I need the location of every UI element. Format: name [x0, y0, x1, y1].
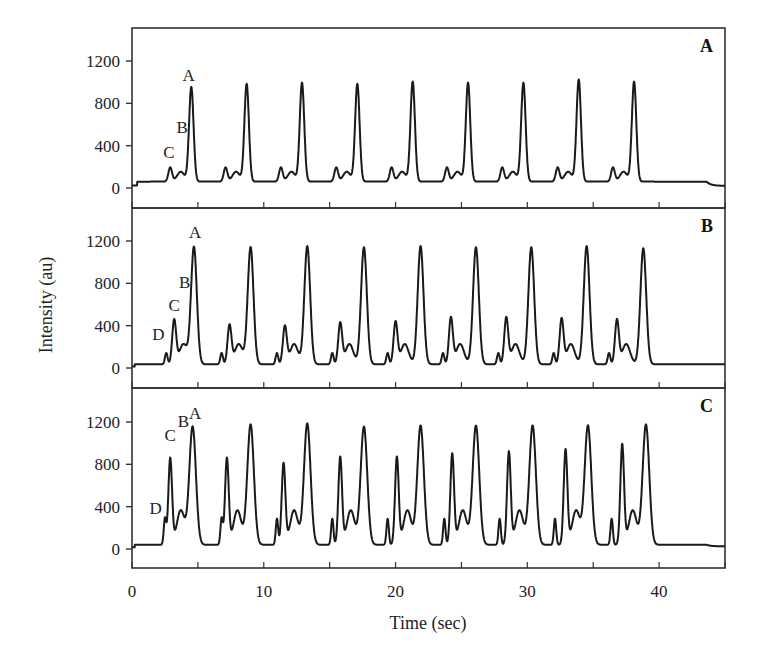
panel-c: 04008001200CABCD: [86, 388, 725, 568]
peak-label-a: A: [189, 223, 202, 242]
y-tick-label: 400: [95, 498, 121, 517]
peak-label-b: B: [179, 273, 190, 292]
chromatogram-figure: 04008001200AABC04008001200BABCD040080012…: [0, 0, 762, 665]
peak-label-b: B: [176, 118, 187, 137]
panels-group: 04008001200AABC04008001200BABCD040080012…: [86, 28, 725, 601]
chromatogram-trace: [132, 80, 725, 186]
y-tick-label: 1200: [86, 52, 120, 71]
panel-label: B: [701, 216, 713, 236]
y-tick-label: 0: [112, 359, 121, 378]
peak-label-b: B: [178, 412, 189, 431]
peak-label-a: A: [183, 66, 196, 85]
y-tick-label: 0: [112, 540, 121, 559]
chromatogram-trace: [132, 246, 725, 366]
peak-label-c: C: [163, 143, 174, 162]
x-tick-label: 0: [128, 582, 137, 601]
x-tick-label: 30: [519, 582, 536, 601]
x-axis-title: Time (sec): [390, 613, 467, 634]
y-tick-label: 400: [95, 317, 121, 336]
y-axis-title: Intensity (au): [36, 257, 57, 353]
y-tick-label: 0: [112, 179, 121, 198]
y-tick-label: 800: [95, 94, 121, 113]
x-tick-label: 10: [255, 582, 272, 601]
peak-label-c: C: [165, 426, 176, 445]
y-tick-label: 800: [95, 455, 121, 474]
y-tick-label: 1200: [86, 413, 120, 432]
panel-a: 04008001200AABC: [86, 28, 725, 208]
y-tick-label: 800: [95, 274, 121, 293]
peak-label-d: D: [150, 499, 162, 518]
x-tick-label: 20: [387, 582, 404, 601]
y-tick-label: 400: [95, 137, 121, 156]
panel-label: A: [700, 36, 713, 56]
peak-label-d: D: [152, 325, 164, 344]
panel-b: 04008001200BABCD: [86, 208, 725, 388]
panel-label: C: [700, 396, 713, 416]
peak-label-a: A: [189, 404, 202, 423]
x-tick-label: 40: [651, 582, 668, 601]
y-tick-label: 1200: [86, 232, 120, 251]
chromatogram-trace: [132, 423, 725, 547]
peak-label-c: C: [168, 296, 179, 315]
